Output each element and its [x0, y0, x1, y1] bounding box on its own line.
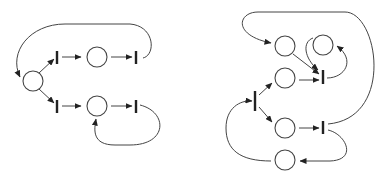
- arc-p0-t0: [39, 59, 54, 73]
- arc-pa-ta: [293, 54, 319, 74]
- place-p2: [87, 96, 107, 116]
- place-pc: [275, 68, 295, 88]
- arc-tc-pe: [300, 130, 347, 161]
- right-net: [226, 12, 374, 170]
- place-p0: [23, 71, 43, 91]
- arc-pe-tb-loop: [226, 101, 271, 161]
- arc-tb-pc: [259, 83, 272, 95]
- arc-p0-t2: [39, 89, 54, 103]
- petri-net-diagram: [0, 0, 388, 179]
- place-pd: [275, 118, 295, 138]
- arc-tb-pd: [259, 107, 272, 122]
- place-pe: [275, 150, 295, 170]
- place-pb: [313, 35, 333, 55]
- place-pa: [275, 36, 295, 56]
- arc-tc-pa-loop: [242, 12, 374, 124]
- place-p1: [87, 47, 107, 67]
- left-net: [17, 24, 160, 145]
- arc-t1-p0-loop: [17, 24, 152, 77]
